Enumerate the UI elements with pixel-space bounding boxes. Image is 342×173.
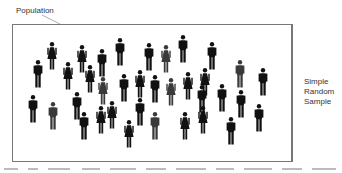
woman-icon bbox=[183, 72, 193, 100]
man-icon bbox=[150, 75, 160, 103]
man-icon bbox=[97, 49, 107, 77]
man-icon bbox=[115, 38, 125, 66]
man-icon bbox=[258, 68, 268, 96]
sample-label-line: Simple bbox=[304, 77, 334, 87]
woman-icon bbox=[96, 106, 106, 134]
man-icon bbox=[144, 43, 154, 71]
cropped-caption bbox=[0, 168, 342, 173]
woman-icon bbox=[135, 70, 145, 98]
man-icon bbox=[178, 35, 188, 63]
woman-icon bbox=[107, 101, 117, 129]
woman-icon bbox=[180, 112, 190, 140]
man-icon bbox=[235, 60, 245, 88]
man-icon bbox=[79, 112, 89, 140]
man-icon bbox=[254, 104, 264, 132]
man-icon bbox=[28, 95, 38, 123]
sample-label-line: Sample bbox=[304, 97, 334, 107]
man-icon bbox=[150, 112, 160, 140]
man-icon bbox=[226, 117, 236, 145]
woman-icon bbox=[166, 78, 176, 106]
woman-icon bbox=[198, 106, 208, 134]
man-icon bbox=[236, 90, 246, 118]
man-icon bbox=[119, 74, 129, 102]
man-icon bbox=[33, 60, 43, 88]
woman-icon bbox=[85, 65, 95, 93]
man-icon bbox=[207, 42, 217, 70]
man-icon bbox=[135, 98, 145, 126]
man-icon bbox=[48, 102, 58, 130]
population-label: Population bbox=[16, 6, 54, 15]
woman-icon bbox=[161, 45, 171, 73]
woman-icon bbox=[200, 68, 210, 96]
woman-icon bbox=[47, 42, 57, 70]
sample-label: Simple Random Sample bbox=[304, 77, 334, 107]
man-icon bbox=[217, 84, 227, 112]
woman-icon bbox=[63, 62, 73, 90]
sample-label-line: Random bbox=[304, 87, 334, 97]
woman-icon bbox=[124, 120, 134, 148]
